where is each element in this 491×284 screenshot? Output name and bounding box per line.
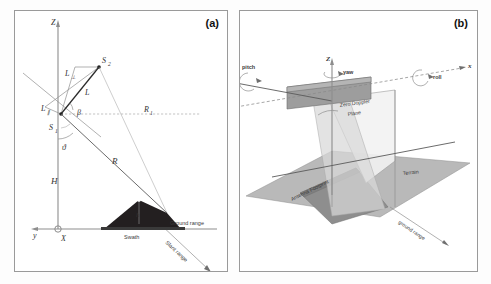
sensor-s2-sub: 2 bbox=[108, 61, 111, 67]
ground-range-label: Ground range bbox=[170, 220, 204, 226]
panel-a-graphic: Z y X S 2 S 1 L ⊥ L L ∥ β ϑ H R R 1 h Sw… bbox=[15, 11, 228, 272]
y-axis-label: y bbox=[32, 231, 37, 240]
range-R-label: R bbox=[111, 156, 118, 166]
sensor-s1-label: S bbox=[49, 123, 53, 132]
target-point bbox=[137, 198, 140, 201]
yaw-label: yaw bbox=[343, 69, 354, 75]
ground-range-label-b: ground range bbox=[397, 219, 426, 241]
roll-arc bbox=[413, 70, 428, 86]
height-H-label: H bbox=[50, 176, 58, 186]
panel-b-label: (b) bbox=[454, 17, 468, 29]
sensor-s1-sub: 1 bbox=[55, 128, 58, 134]
z-axis-arrowhead bbox=[56, 20, 60, 27]
range-R1-label: R bbox=[143, 105, 149, 114]
baseline-perp-sub: ⊥ bbox=[71, 74, 76, 80]
z-axis-arrowhead-b bbox=[330, 58, 334, 65]
angle-beta-label: β bbox=[76, 108, 81, 117]
baseline-perp-label: L bbox=[64, 69, 70, 78]
swath-label: Swath bbox=[124, 234, 139, 240]
panel-a-label: (a) bbox=[206, 17, 219, 29]
x-axis-arrowhead bbox=[459, 66, 466, 70]
panel-a: Z y X S 2 S 1 L ⊥ L L ∥ β ϑ H R R 1 h Sw… bbox=[14, 10, 228, 272]
slant-range-label: Slant range bbox=[164, 239, 189, 263]
slant-range-R1-line bbox=[99, 67, 167, 213]
panel-b-graphic: pitch yaw roll Z x Zero Doppler Plane An… bbox=[240, 11, 478, 272]
sensor-s2-label: S bbox=[102, 56, 106, 65]
figure-container: Z y X S 2 S 1 L ⊥ L L ∥ β ϑ H R R 1 h Sw… bbox=[0, 0, 491, 284]
angle-beta-arc bbox=[70, 103, 73, 110]
pitch-label: pitch bbox=[242, 64, 256, 70]
range-R1-sub: 1 bbox=[150, 110, 153, 116]
slant-range-extension bbox=[160, 224, 209, 270]
angle-theta-label: ϑ bbox=[62, 143, 67, 152]
roll-label: roll bbox=[433, 74, 442, 80]
ground-range-line-b bbox=[390, 207, 446, 244]
angle-inner-arc bbox=[61, 124, 70, 128]
x-axis-label-b: x bbox=[467, 62, 472, 70]
z-axis-label-b: Z bbox=[325, 55, 331, 63]
pitch-arc bbox=[240, 73, 254, 91]
pitch-direction-arrow bbox=[256, 78, 262, 83]
swath-bar bbox=[101, 227, 185, 230]
target-height-label: h bbox=[136, 211, 140, 219]
baseline-par-sub: ∥ bbox=[47, 109, 51, 116]
origin-label: X bbox=[60, 234, 67, 243]
z-axis-label: Z bbox=[51, 18, 56, 27]
baseline-L-label: L bbox=[84, 88, 90, 97]
cross-track-line bbox=[23, 73, 101, 137]
panel-b: pitch yaw roll Z x Zero Doppler Plane An… bbox=[239, 10, 478, 272]
baseline-par-label: L bbox=[40, 104, 46, 113]
angle-theta-arc bbox=[58, 133, 73, 139]
ground-range-arrowhead-b bbox=[442, 240, 449, 246]
